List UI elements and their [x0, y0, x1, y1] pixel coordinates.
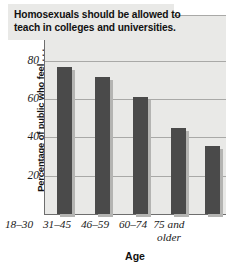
y-tick-label-20: 20	[0, 170, 39, 182]
bar-31-45	[95, 77, 110, 214]
bar-18-30	[57, 67, 72, 214]
chart-title-line-2: teach in colleges and universities.	[14, 22, 168, 35]
gridline-80	[45, 61, 226, 62]
bar-46-59	[133, 97, 148, 214]
chart-title-box: Homosexuals should be allowed to teach i…	[8, 4, 174, 40]
y-tick-label-80: 80	[0, 55, 39, 67]
y-tick-label-40: 40	[0, 131, 39, 143]
x-axis-title: Age	[44, 250, 226, 262]
chart-title-line-1: Homosexuals should be allowed to	[14, 9, 168, 22]
chart-figure: Percentage of public who feel . . . 100 …	[0, 0, 233, 269]
y-tick-label-60: 60	[0, 93, 39, 105]
bar-60-74	[171, 128, 186, 214]
bar-75-older	[205, 146, 220, 214]
x-tick-label-75-older-line1: 75 and	[142, 218, 196, 231]
x-tick-label-75-older-line2: older	[142, 231, 196, 244]
x-tick-label-75-older: 75 and older	[142, 218, 196, 243]
plot-area	[44, 15, 226, 215]
